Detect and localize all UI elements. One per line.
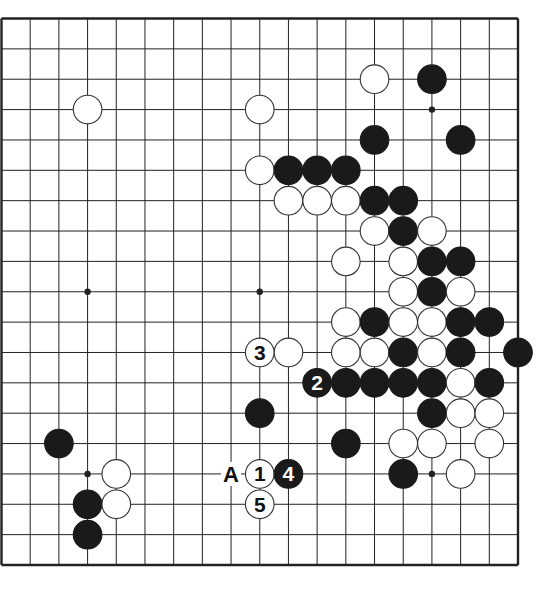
white-stone [389,308,418,337]
move-number-label: 2 [311,371,323,394]
white-stone [418,308,447,337]
black-stone [446,247,475,276]
black-stone [389,369,418,398]
go-board: 12345 A [0,0,542,604]
black-stone [418,277,447,306]
move-1: 1 [245,460,274,489]
black-stone [418,247,447,276]
white-stone [360,338,389,367]
white-stone [389,429,418,458]
star-point [84,471,90,477]
black-stone [446,338,475,367]
white-stone [446,399,475,428]
white-stone [389,277,418,306]
black-stone [245,399,274,428]
white-stone [73,95,102,124]
white-stone [332,247,361,276]
letter-marks: A [221,462,241,487]
black-stone [389,217,418,246]
white-stone [332,186,361,215]
black-stone [274,156,303,185]
black-stone [389,338,418,367]
white-stone [303,186,332,215]
star-point [257,289,263,295]
black-stone [332,369,361,398]
black-stone [360,186,389,215]
white-stone [446,369,475,398]
black-stone [446,126,475,155]
black-stone [475,308,504,337]
white-stone [360,217,389,246]
black-stone [332,429,361,458]
black-stone [418,399,447,428]
black-stone [332,156,361,185]
black-stone [418,369,447,398]
black-stone [504,338,533,367]
white-stone [418,429,447,458]
move-3: 3 [245,338,274,367]
letter-mark-label: A [223,462,239,487]
white-stone [418,338,447,367]
move-number-label: 3 [254,341,266,364]
move-number-label: 4 [283,462,295,485]
white-stone [102,490,131,519]
white-stone [475,399,504,428]
white-stone [102,460,131,489]
white-stone [446,277,475,306]
black-stone [389,460,418,489]
white-stone [274,186,303,215]
white-stone [360,65,389,94]
white-stone [245,95,274,124]
move-2: 2 [303,369,332,398]
white-stone [475,429,504,458]
black-stone [360,369,389,398]
white-stone [245,156,274,185]
black-stone [418,65,447,94]
star-point [429,471,435,477]
white-stone [274,338,303,367]
black-stone [45,429,74,458]
white-stone [418,217,447,246]
white-stone [332,338,361,367]
black-stone [73,520,102,549]
white-stone [332,308,361,337]
move-4: 4 [274,460,303,489]
star-point [429,106,435,112]
black-stone [389,186,418,215]
white-stone [446,460,475,489]
star-point [84,289,90,295]
move-5: 5 [245,490,274,519]
black-stone [446,308,475,337]
move-number-label: 5 [254,493,266,516]
black-stone [360,308,389,337]
black-stone [303,156,332,185]
black-stone [475,369,504,398]
move-number-label: 1 [254,462,266,485]
black-stone [73,490,102,519]
white-stone [389,247,418,276]
black-stone [360,126,389,155]
letter-mark-A: A [221,462,241,487]
